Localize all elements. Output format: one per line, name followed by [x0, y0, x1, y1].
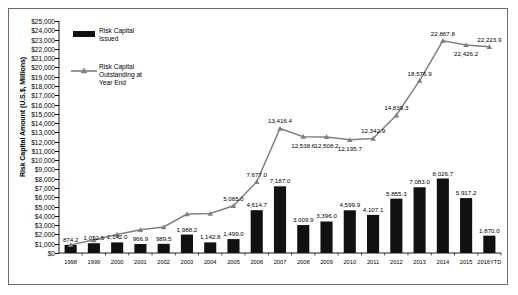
x-tick-label: 2008 [297, 259, 310, 265]
y-tick-mark [55, 179, 59, 180]
y-tick-label: $7,000 [35, 185, 55, 192]
y-tick-mark [55, 67, 59, 68]
legend-bar-label: Risk Capital Issued [99, 27, 134, 43]
y-tick-mark [55, 188, 59, 189]
y-tick-label: $8,000 [35, 175, 55, 182]
x-tick-label: 2005 [227, 259, 240, 265]
bar-value-label: 4,599.9 [339, 201, 360, 208]
line-value-label: 12,508.2 [314, 142, 338, 149]
line-value-label: 12,195.7 [338, 145, 362, 152]
line-value-label: 22,223.9 [477, 36, 501, 43]
y-tick-label: $15,000 [31, 110, 55, 117]
y-tick-mark [55, 132, 59, 133]
y-tick-mark [55, 197, 59, 198]
y-tick-label: $17,000 [31, 92, 55, 99]
y-tick-mark [55, 114, 59, 115]
y-tick-mark [55, 151, 59, 152]
legend-line-swatch [71, 67, 97, 75]
legend-line-label: Risk Capital Outstanding at Year End [99, 63, 142, 88]
y-tick-label: $0 [48, 250, 55, 257]
bar-value-label: 1,142.0 [107, 233, 128, 240]
bar-value-label: 966.9 [133, 235, 148, 242]
bar-value-label: 1,052.5 [84, 234, 105, 241]
y-tick-mark [55, 58, 59, 59]
line-value-label: 22,867.8 [431, 30, 455, 37]
line-value-label: 14,839.3 [384, 104, 408, 111]
bar-value-label: 8,026.7 [433, 170, 454, 177]
x-tick-label: 2015 [460, 259, 473, 265]
x-tick-label: 2010 [343, 259, 356, 265]
x-tick-label: 2012 [390, 259, 403, 265]
bar-value-label: 1,142.8 [200, 233, 221, 240]
y-tick-mark [55, 77, 59, 78]
x-tick-label: 2006 [250, 259, 263, 265]
y-tick-mark [55, 142, 59, 143]
y-tick-label: $14,000 [31, 120, 55, 127]
y-tick-mark [55, 95, 59, 96]
y-tick-mark [55, 21, 59, 22]
bar-value-label: 1,870.0 [479, 227, 500, 234]
chart-canvas [9, 9, 509, 286]
bar-value-label: 5,917.2 [456, 189, 477, 196]
x-tick-label: 1998 [64, 259, 77, 265]
y-tick-mark [55, 207, 59, 208]
line-value-label: 5,085.0 [223, 195, 244, 202]
bar-value-label: 3,009.9 [293, 216, 314, 223]
y-tick-mark [55, 225, 59, 226]
y-tick-label: $20,000 [31, 64, 55, 71]
x-tick-label: 2002 [157, 259, 170, 265]
y-tick-label: $19,000 [31, 73, 55, 80]
y-tick-label: $12,000 [31, 138, 55, 145]
y-tick-label: $5,000 [35, 203, 55, 210]
y-tick-label: $18,000 [31, 82, 55, 89]
y-tick-label: $13,000 [31, 129, 55, 136]
line-value-label: 22,426.2 [454, 50, 478, 57]
y-tick-label: $24,000 [31, 27, 55, 34]
x-tick-label: 2011 [367, 259, 379, 265]
y-tick-label: $4,000 [35, 212, 55, 219]
x-tick-label: 2004 [204, 259, 217, 265]
y-tick-label: $22,000 [31, 45, 55, 52]
y-tick-mark [55, 234, 59, 235]
y-tick-label: $2,000 [35, 231, 55, 238]
y-tick-label: $3,000 [35, 222, 55, 229]
line-value-label: 12,342.9 [361, 127, 385, 134]
bar-value-label: 1,988.2 [177, 226, 198, 233]
bar-value-label: 3,396.0 [316, 212, 337, 219]
bar-value-label: 4,614.7 [246, 201, 267, 208]
y-tick-mark [55, 244, 59, 245]
y-tick-label: $25,000 [31, 18, 55, 25]
x-tick-label: 2001 [134, 259, 147, 265]
bar-series [65, 179, 496, 253]
y-tick-mark [55, 105, 59, 106]
x-tick-label: 2016YTD [477, 259, 501, 265]
y-tick-label: $11,000 [32, 147, 55, 154]
y-tick-mark [55, 253, 59, 254]
x-tick-label: 2009 [320, 259, 333, 265]
line-value-label: 12,538.6 [291, 142, 315, 149]
y-tick-mark [55, 86, 59, 87]
y-tick-label: $23,000 [31, 36, 55, 43]
y-tick-mark [55, 216, 59, 217]
y-tick-mark [55, 123, 59, 124]
line-value-label: 18,576.9 [408, 70, 432, 77]
chart-frame: Risk Capital Amount (U.S.$, Millions) $0… [8, 8, 508, 285]
y-axis-tick-labels: $0$1,000$2,000$3,000$4,000$5,000$6,000$7… [9, 9, 55, 286]
bar-value-label: 874.2 [63, 236, 78, 243]
bar-value-label: 989.5 [156, 235, 171, 242]
y-tick-label: $1,000 [35, 240, 55, 247]
y-tick-mark [55, 40, 59, 41]
legend-bar-swatch [73, 31, 95, 37]
x-tick-label: 2007 [274, 259, 287, 265]
line-value-label: 13,416.4 [268, 117, 292, 124]
x-tick-label: 2000 [111, 259, 124, 265]
y-tick-label: $9,000 [35, 166, 55, 173]
y-tick-mark [55, 160, 59, 161]
bar-value-label: 7,187.0 [270, 177, 291, 184]
x-tick-label: 2003 [181, 259, 194, 265]
y-tick-mark [55, 169, 59, 170]
x-tick-label: 1999 [88, 259, 101, 265]
bar-value-label: 5,855.3 [386, 190, 407, 197]
y-tick-label: $21,000 [31, 55, 55, 62]
y-tick-mark [55, 49, 59, 50]
